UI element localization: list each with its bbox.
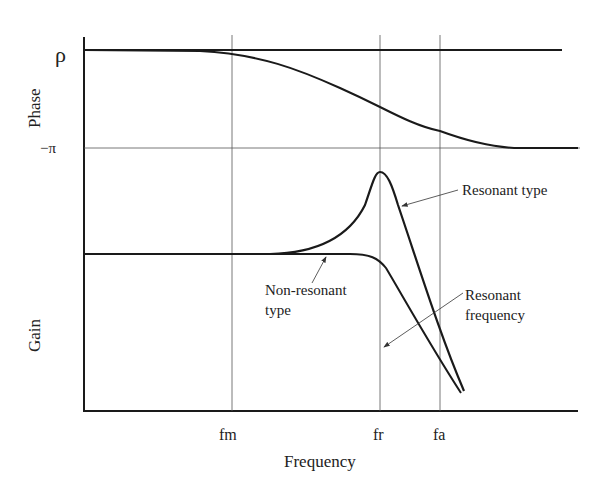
- label-resonant-freq-1: Resonant: [465, 287, 522, 303]
- arrow-resonant-type: [402, 190, 458, 206]
- phase-minus-pi-label: −π: [40, 140, 56, 156]
- tick-fm: fm: [219, 426, 237, 443]
- phase-gain-diagram: ρ −π Phase Gain fm fr fa Frequency Reson…: [0, 0, 595, 487]
- label-resonant-freq-2: frequency: [465, 307, 525, 323]
- label-non-resonant-2: type: [265, 302, 291, 318]
- label-non-resonant-1: Non-resonant: [265, 282, 347, 298]
- x-axis-label: Frequency: [284, 452, 356, 471]
- gain-nonresonant-curve: [260, 254, 461, 393]
- tick-fa: fa: [433, 426, 445, 443]
- label-resonant-type: Resonant type: [462, 182, 548, 198]
- phase-zero-label: ρ: [55, 42, 66, 67]
- arrow-non-resonant: [312, 257, 326, 283]
- tick-fr: fr: [373, 426, 384, 443]
- phase-curve: [84, 50, 578, 148]
- phase-axis-label: Phase: [25, 88, 44, 128]
- gain-axis-label: Gain: [25, 318, 44, 352]
- arrow-resonant-frequency: [384, 293, 463, 347]
